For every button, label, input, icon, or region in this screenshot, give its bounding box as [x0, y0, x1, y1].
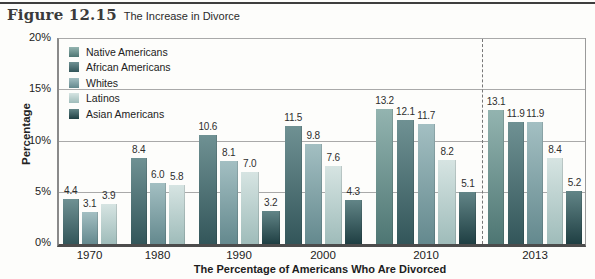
x-tick-label-1970: 1970 [60, 249, 120, 261]
bar-latinos-1980 [169, 185, 185, 244]
bar-value-label: 10.6 [190, 121, 226, 132]
bar-whites-1990 [220, 161, 238, 244]
legend-swatch-icon [69, 62, 79, 72]
legend-label: Whites [86, 77, 118, 89]
legend-swatch-icon [69, 109, 79, 119]
figure-label: Figure 12.15 [7, 6, 117, 24]
bar-value-label: 8.1 [211, 147, 247, 158]
bar-value-label: 11.9 [517, 108, 553, 119]
bar-native-americans-2013 [488, 110, 504, 244]
gridline-20 [59, 38, 585, 39]
x-tick-label-1980: 1980 [128, 249, 188, 261]
bar-value-label: 5.1 [450, 178, 486, 189]
gridline-10 [59, 141, 585, 142]
bar-whites-2010 [418, 124, 435, 244]
bar-value-label: 5.8 [159, 171, 195, 182]
legend-label: Latinos [86, 92, 120, 104]
bar-african-americans-2010 [397, 120, 414, 244]
bar-value-label: 11.5 [275, 112, 311, 123]
legend-swatch-icon [69, 93, 79, 103]
plot-area: Native AmericansAfrican AmericansWhitesL… [57, 38, 586, 247]
bar-value-label: 13.1 [478, 96, 514, 107]
projection-separator-line [482, 39, 483, 244]
legend-item-african-americans: African Americans [69, 60, 171, 76]
legend-item-asian-americans: Asian Americans [69, 106, 171, 122]
bar-value-label: 8.4 [121, 144, 157, 155]
x-tick-label-2000: 2000 [293, 249, 353, 261]
bar-value-label: 8.2 [429, 146, 465, 157]
figure-12-15: Figure 12.15The Increase in Divorce Perc… [0, 0, 595, 279]
bar-latinos-2013 [547, 158, 563, 244]
x-tick-label-1990: 1990 [209, 249, 269, 261]
legend-item-whites: Whites [69, 75, 171, 91]
bar-value-label: 7.6 [315, 152, 351, 163]
y-tick-label-10: 10% [15, 134, 51, 146]
bar-value-label: 11.7 [408, 110, 444, 121]
legend-swatch-icon [69, 47, 79, 57]
bar-african-americans-2013 [508, 122, 524, 244]
legend-item-latinos: Latinos [69, 91, 171, 107]
bar-asian-americans-2000 [345, 200, 362, 244]
bar-whites-2013 [527, 122, 543, 244]
x-axis-title: The Percentage of Americans Who Are Divo… [57, 263, 583, 275]
bar-asian-americans-2013 [566, 191, 582, 244]
y-tick-label-20: 20% [15, 31, 51, 43]
bar-latinos-2010 [438, 160, 455, 244]
x-tick-label-2010: 2010 [396, 249, 456, 261]
bar-whites-1980 [150, 183, 166, 245]
legend-label: Asian Americans [86, 108, 164, 120]
y-tick-label-15: 15% [15, 82, 51, 94]
bar-whites-1970 [82, 212, 98, 244]
bar-value-label: 7.0 [232, 158, 268, 169]
y-tick-label-5: 5% [15, 185, 51, 197]
bar-value-label: 4.4 [53, 185, 89, 196]
bar-value-label: 3.9 [91, 190, 127, 201]
figure-header: Figure 12.15The Increase in Divorce [7, 6, 240, 24]
bar-native-americans-2010 [376, 109, 393, 244]
bar-asian-americans-2010 [459, 192, 476, 244]
y-tick-label-0: 0% [15, 236, 51, 248]
bar-value-label: 8.4 [537, 144, 573, 155]
legend: Native AmericansAfrican AmericansWhitesL… [69, 44, 171, 122]
legend-label: Native Americans [86, 46, 168, 58]
bar-value-label: 4.3 [335, 186, 371, 197]
top-rule [0, 2, 595, 4]
bar-value-label: 13.2 [367, 95, 403, 106]
figure-title: The Increase in Divorce [124, 10, 240, 22]
x-tick-label-2013: 2013 [505, 249, 565, 261]
bar-value-label: 9.8 [295, 130, 331, 141]
bar-asian-americans-1990 [262, 211, 280, 244]
legend-swatch-icon [69, 78, 79, 88]
bar-value-label: 3.2 [253, 197, 289, 208]
legend-item-native-americans: Native Americans [69, 44, 171, 60]
bar-latinos-1970 [101, 204, 117, 244]
bar-latinos-2000 [325, 166, 342, 244]
bar-african-americans-2000 [285, 126, 302, 244]
legend-label: African Americans [86, 61, 171, 73]
bar-value-label: 5.2 [556, 177, 592, 188]
